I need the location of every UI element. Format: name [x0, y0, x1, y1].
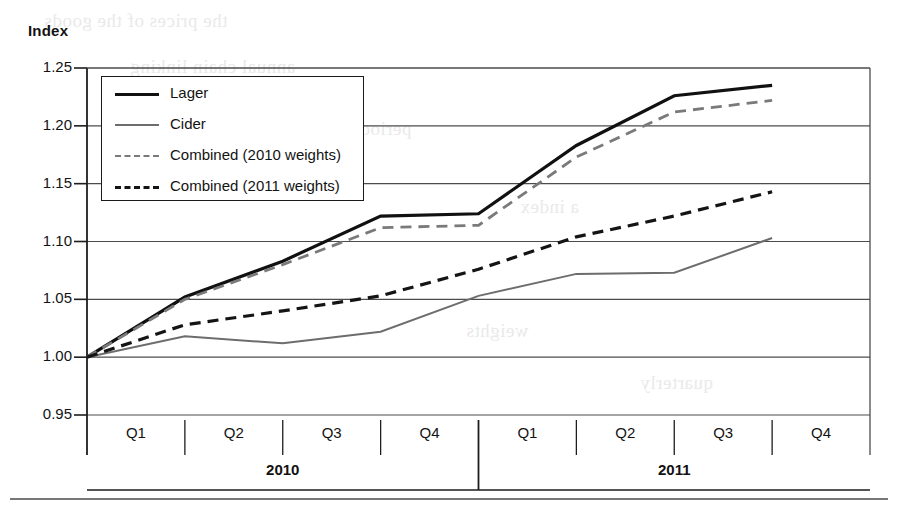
legend-line-icon — [115, 118, 159, 130]
legend-item-combined-2010: Combined (2010 weights) — [102, 139, 363, 170]
x-tick-label-q1: Q1 — [478, 424, 576, 441]
legend-label: Combined (2010 weights) — [170, 146, 341, 163]
y-tick-label: 1.10 — [20, 232, 72, 249]
x-tick-label-q2: Q2 — [185, 424, 283, 441]
index-line-chart: the prices of the goods annual chain lin… — [0, 0, 898, 515]
legend-item-combined-2011: Combined (2011 weights) — [102, 170, 363, 201]
y-tick-label: 1.20 — [20, 116, 72, 133]
legend-line-icon — [115, 180, 159, 192]
legend-label: Combined (2011 weights) — [170, 177, 340, 194]
legend-line-icon — [115, 149, 159, 161]
y-tick-label: 1.25 — [20, 58, 72, 75]
legend-item-lager: Lager — [102, 77, 363, 108]
x-tick-label-q2: Q2 — [576, 424, 674, 441]
year-label-2010: 2010 — [233, 461, 333, 478]
x-tick-label-q4: Q4 — [772, 424, 870, 441]
legend-item-cider: Cider — [102, 108, 363, 139]
legend-label: Cider — [170, 115, 206, 132]
y-tick-label: 1.05 — [20, 289, 72, 306]
x-tick-label-q3: Q3 — [283, 424, 381, 441]
series-line-combined-2011-weights — [87, 192, 772, 357]
y-tick-label: 1.00 — [20, 347, 72, 364]
legend-line-icon — [115, 87, 159, 99]
y-tick-label: 0.95 — [20, 405, 72, 422]
y-tick-label: 1.15 — [20, 174, 72, 191]
x-tick-label-q3: Q3 — [674, 424, 772, 441]
x-tick-label-q1: Q1 — [87, 424, 185, 441]
chart-legend: Lager Cider Combined (2010 weights) Comb… — [101, 76, 364, 201]
legend-label: Lager — [170, 84, 208, 101]
x-tick-label-q4: Q4 — [381, 424, 479, 441]
year-label-2011: 2011 — [624, 461, 724, 478]
